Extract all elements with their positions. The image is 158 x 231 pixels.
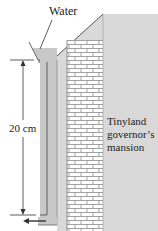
arrow-left-icon [23,218,29,224]
height-label: 20 cm [8,122,37,135]
building-label: Tinyland governor’s mansion [107,115,154,154]
water-label: Water [49,5,77,18]
water-leader-line [40,20,52,49]
building-label-line-1: Tinyland [107,115,154,128]
building-label-line-2: governor’s [107,128,154,141]
height-dimension [10,60,36,215]
arrow-up-icon [21,60,26,66]
water-column [40,60,57,225]
building-label-line-3: mansion [107,141,154,154]
brick-wall [67,40,103,231]
arrow-down-icon [21,209,26,215]
